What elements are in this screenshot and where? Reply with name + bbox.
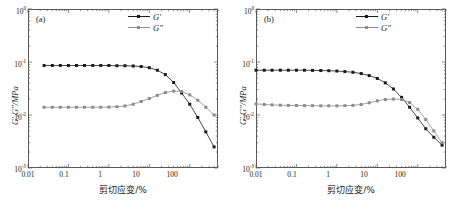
ticks-b bbox=[256, 9, 446, 168]
curves-b bbox=[228, 0, 456, 204]
panel-b: (b) 100 10-1 10-2 10-3 0.01 0.1 1 10 100… bbox=[228, 0, 456, 204]
figure-strain-sweep: (a) 100 10-1 10-2 10-3 0.01 0.1 1 10 100… bbox=[0, 0, 456, 204]
panel-a: (a) 100 10-1 10-2 10-3 0.01 0.1 1 10 100… bbox=[0, 0, 228, 204]
series-b bbox=[255, 69, 444, 147]
curves-a bbox=[0, 0, 228, 204]
series-a bbox=[43, 64, 216, 148]
ticks-a bbox=[28, 9, 218, 168]
